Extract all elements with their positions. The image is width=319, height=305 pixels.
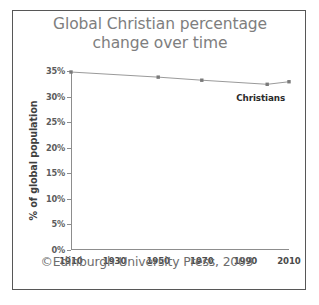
y-tick-label: 10% [46, 194, 65, 204]
y-tick-label: 25% [46, 117, 65, 127]
y-tick-label: 30% [46, 92, 65, 102]
data-point-2000 [266, 83, 269, 86]
data-point-1950 [157, 75, 160, 78]
data-point-2010 [287, 80, 290, 83]
chart-title-line-1: Global Christian percentage [27, 15, 293, 34]
chart-title-line-2: change over time [27, 34, 293, 53]
copyright-credit: ©Edinburgh University Press, 2009 [14, 254, 280, 269]
y-axis-title-label: % of global population [29, 101, 40, 221]
series-label-christians: Christians [236, 93, 285, 103]
data-point-1910 [69, 70, 72, 73]
series-line-christians [71, 72, 289, 84]
chart-figure: Global Christian percentage change over … [0, 0, 319, 305]
y-tick-label: 15% [46, 168, 65, 178]
y-tick-label: 20% [46, 143, 65, 153]
y-tick-mark [67, 250, 71, 251]
chart-title: Global Christian percentage change over … [27, 15, 293, 53]
plot-area: 0%5%10%15%20%25%30%35% 19101930195019701… [71, 71, 289, 250]
y-tick-label: 35% [46, 66, 65, 76]
figure-border: Global Christian percentage change over … [12, 10, 306, 290]
y-axis-title: % of global population [27, 71, 41, 250]
y-tick-label: 5% [51, 219, 65, 229]
x-tick-label: 2010 [277, 256, 301, 266]
data-point-1970 [200, 79, 203, 82]
